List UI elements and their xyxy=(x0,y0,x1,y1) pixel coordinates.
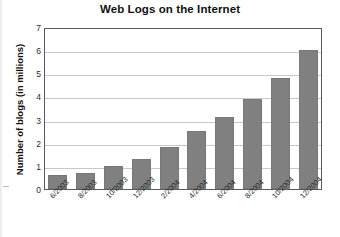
bar xyxy=(271,78,290,189)
scan-tick-artifact xyxy=(3,186,9,187)
x-axis-tick-labels: 6/20038/200310/200312/20032/20044/20046/… xyxy=(44,190,322,237)
y-tick-label: 5 xyxy=(19,70,41,79)
y-tick-label: 1 xyxy=(19,163,41,172)
bars-layer xyxy=(44,28,322,190)
chart-title: Web Logs on the Internet xyxy=(0,3,340,15)
y-tick-label: 4 xyxy=(19,93,41,102)
y-tick-label: 0 xyxy=(19,186,41,195)
bar xyxy=(243,99,262,189)
y-tick-label: 6 xyxy=(19,47,41,56)
scan-edge-artifact xyxy=(0,0,3,237)
bar xyxy=(299,50,318,189)
y-tick-label: 3 xyxy=(19,117,41,126)
bar-chart-figure: Web Logs on the Internet Number of blogs… xyxy=(0,0,340,237)
y-tick-label: 7 xyxy=(19,24,41,33)
y-tick-label: 2 xyxy=(19,140,41,149)
